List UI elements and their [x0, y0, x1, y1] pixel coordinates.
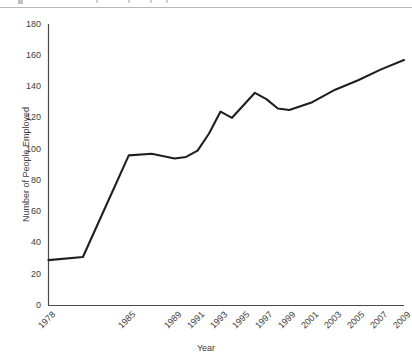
plot-area — [0, 0, 412, 358]
y-tick-label: 0 — [11, 301, 41, 310]
y-axis-title: Number of People Employed — [22, 75, 31, 255]
data-series-line — [49, 60, 405, 260]
line-chart: 020406080100120140160180 Number of Peopl… — [0, 0, 412, 358]
y-tick-label: 20 — [11, 270, 41, 279]
y-tick-label: 160 — [11, 51, 41, 60]
y-tick-label: 180 — [11, 20, 41, 29]
x-axis-title: Year — [0, 344, 412, 353]
